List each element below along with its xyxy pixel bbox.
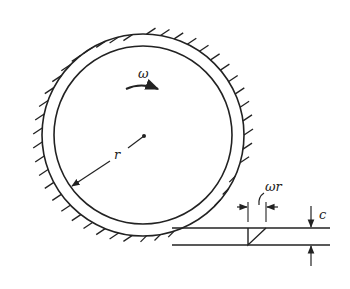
wr-leader xyxy=(259,193,264,205)
clearance-label: c xyxy=(319,207,327,222)
radius-arrow xyxy=(72,161,110,186)
rotation-arrow-icon xyxy=(126,86,158,90)
radius-line-upper xyxy=(128,136,144,148)
journal-bearing-diagram: ω r ωr c xyxy=(0,0,350,289)
omega-label: ω xyxy=(138,66,149,81)
surface-speed-label: ωr xyxy=(265,179,283,194)
radius-label: r xyxy=(114,147,121,162)
velocity-profile-triangle xyxy=(248,228,266,245)
